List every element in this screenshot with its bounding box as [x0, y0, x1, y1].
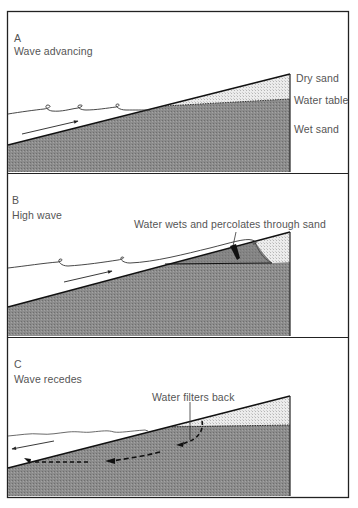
panel-c-letter: C — [14, 358, 22, 370]
panel-c — [8, 396, 290, 496]
dry-sand-label: Dry sand — [296, 72, 339, 84]
panel-a-title: Wave advancing — [14, 45, 93, 57]
wet-sand-label: Wet sand — [294, 123, 339, 135]
panel-b-title: High wave — [12, 209, 62, 221]
percolation-annotation: Water wets and percolates through sand — [134, 218, 326, 230]
panel-a — [8, 74, 290, 172]
panel-b-letter: B — [12, 194, 19, 206]
panel-c-title: Wave recedes — [14, 373, 82, 385]
panel-a-letter: A — [14, 32, 21, 44]
panel-b — [8, 232, 290, 336]
recede-direction-arrow — [12, 441, 54, 449]
filter-back-annotation: Water filters back — [152, 391, 235, 403]
water-table-label: Water table — [294, 94, 348, 106]
wet-sand-region — [8, 425, 290, 496]
wave-direction-arrow — [64, 271, 112, 282]
receding-water-line — [8, 430, 148, 436]
wave-line — [8, 104, 150, 114]
